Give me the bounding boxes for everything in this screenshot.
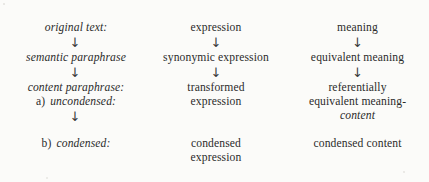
stage-label-text: uncondensed: xyxy=(50,95,116,108)
cell-line-1: meaning xyxy=(337,21,378,34)
meaning-cell-referential-line3: content xyxy=(286,106,429,122)
cell-line-1: expression xyxy=(191,21,242,34)
cell-line-1: equivalent meaning xyxy=(311,51,404,64)
list-marker-a: a) xyxy=(36,96,45,108)
meaning-cell-original: meaning xyxy=(286,18,429,34)
expression-cell-transformed-line2: expression xyxy=(146,92,286,108)
cell-line-3: content xyxy=(340,109,375,122)
cell-line-1: condensed content xyxy=(314,137,402,150)
arrow-uncondensed-to-condensed: ↓ xyxy=(0,110,146,123)
paraphrase-taxonomy-figure: original text: ↓ semantic paraphrase ↓ c… xyxy=(0,0,429,182)
expression-cell-condensed-line2: expression xyxy=(146,148,286,164)
expression-cell-synonymic: synonymic expression xyxy=(146,48,286,64)
stage-label-uncondensed: a)uncondensed: xyxy=(0,92,146,108)
column-meaning-level: meaning ↓ equivalent meaning ↓ referenti… xyxy=(286,0,429,182)
stage-label-original-text: original text: xyxy=(0,18,146,34)
cell-line-1: synonymic expression xyxy=(163,51,269,64)
stage-label-text: semantic paraphrase xyxy=(26,51,126,64)
stage-label-condensed: b)condensed: xyxy=(0,134,146,150)
cell-line-2: expression xyxy=(191,95,242,108)
meaning-cell-condensed: condensed content xyxy=(286,134,429,150)
column-expression-level: expression ↓ synonymic expression ↓ tran… xyxy=(146,0,286,182)
stage-label-semantic-paraphrase: semantic paraphrase xyxy=(0,48,146,64)
cell-line-2: expression xyxy=(191,151,242,164)
stage-label-text: original text: xyxy=(45,21,108,34)
expression-cell-original: expression xyxy=(146,18,286,34)
column-stage-labels: original text: ↓ semantic paraphrase ↓ c… xyxy=(0,0,146,182)
list-marker-b: b) xyxy=(42,138,52,150)
stage-label-text: condensed: xyxy=(56,137,110,150)
meaning-cell-equivalent: equivalent meaning xyxy=(286,48,429,64)
